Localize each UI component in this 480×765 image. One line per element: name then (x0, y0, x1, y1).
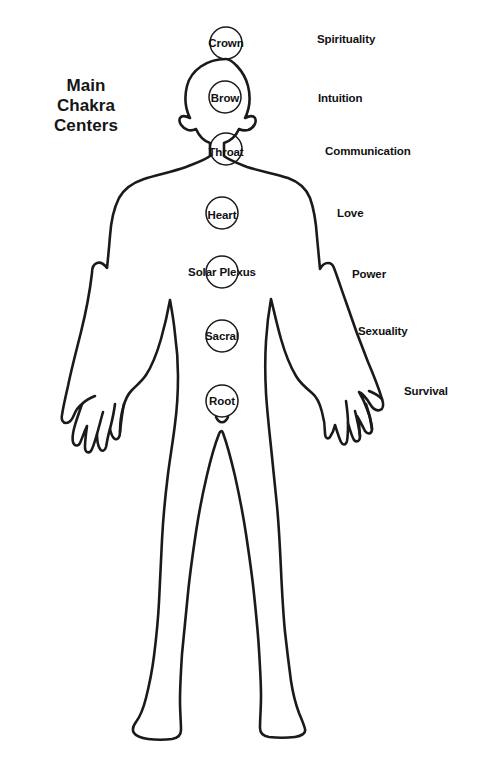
chakra-label-solar-plexus: Solar Plexus (188, 266, 256, 278)
title-line-3: Centers (26, 116, 146, 136)
meaning-label-spirituality: Spirituality (317, 33, 375, 45)
title-line-1: Main (26, 76, 146, 96)
chakra-circles (206, 27, 242, 417)
page-title: Main Chakra Centers (26, 76, 146, 136)
chakra-label-crown: Crown (208, 37, 243, 49)
chakra-label-root: Root (209, 395, 235, 407)
meaning-label-sexuality: Sexuality (358, 325, 408, 337)
chakra-diagram-page: Main Chakra Centers CrownBrowThroatHeart… (0, 0, 480, 765)
meaning-label-love: Love (337, 207, 363, 219)
title-line-2: Chakra (26, 96, 146, 116)
chakra-label-heart: Heart (208, 209, 237, 221)
meaning-label-power: Power (352, 268, 386, 280)
chakra-label-sacral: Sacral (205, 330, 239, 342)
meaning-label-communication: Communication (325, 145, 411, 157)
chakra-label-brow: Brow (211, 92, 239, 104)
meaning-label-intuition: Intuition (318, 92, 362, 104)
meaning-label-survival: Survival (404, 385, 448, 397)
chakra-label-throat: Throat (208, 146, 243, 158)
